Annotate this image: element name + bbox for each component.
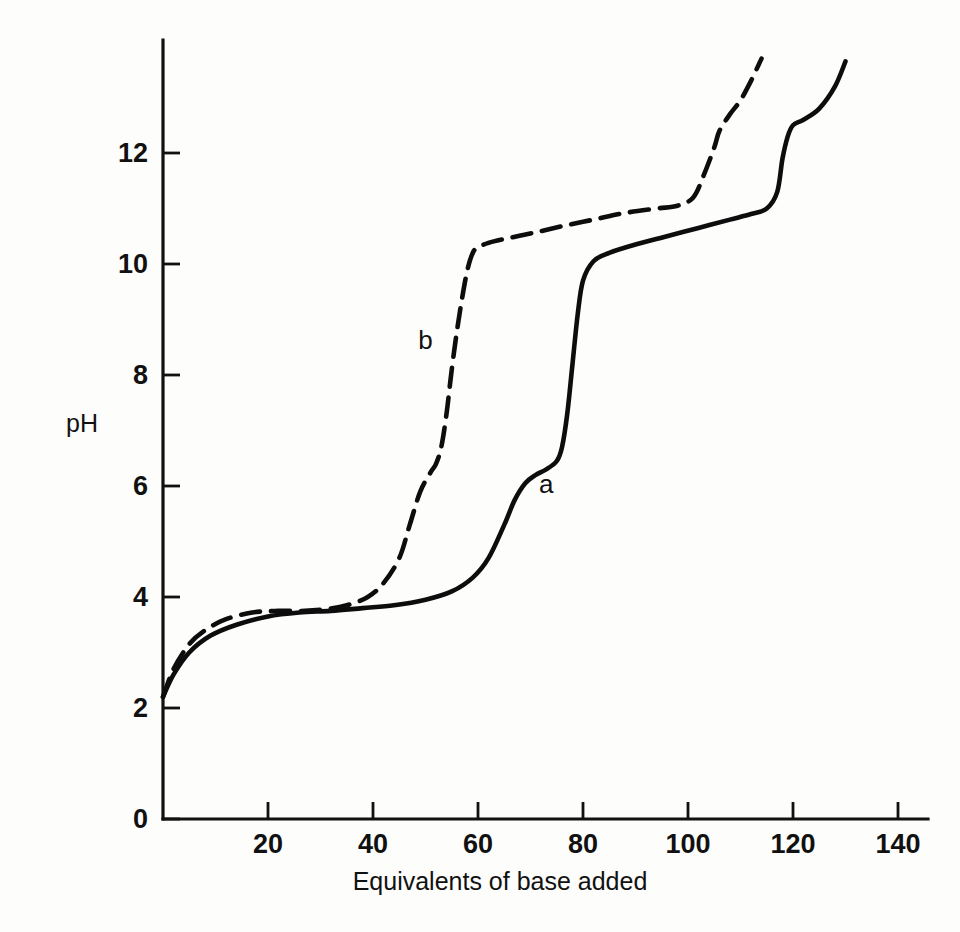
y-tick-label-4: 4 [133,582,148,612]
curves-group [163,59,846,697]
x-tick-label-120: 120 [770,829,815,859]
x-axis-title: Equivalents of base added [353,867,648,895]
x-tick-label-60: 60 [463,829,493,859]
x-tick-label-140: 140 [875,829,920,859]
y-tick-label-0: 0 [133,804,148,834]
y-tick-label-12: 12 [118,138,148,168]
titration-curve-a [163,61,846,696]
x-tick-label-40: 40 [358,829,388,859]
titration-plot-svg: 0 2 4 6 8 10 12 20 40 60 80 100 120 140 … [0,0,960,932]
curve-a-label: a [539,469,554,499]
curve-b-label: b [418,325,432,355]
y-tick-label-10: 10 [118,249,148,279]
titration-chart-figure: 0 2 4 6 8 10 12 20 40 60 80 100 120 140 … [0,0,960,932]
y-axis-title: pH [66,409,98,437]
axes-group [163,40,928,819]
y-tick-label-8: 8 [133,360,148,390]
y-tick-label-2: 2 [133,693,148,723]
y-axis-ticks: 0 2 4 6 8 10 12 [118,138,180,834]
x-tick-label-100: 100 [665,829,710,859]
x-tick-label-80: 80 [568,829,598,859]
x-tick-label-20: 20 [253,829,283,859]
titration-curve-b [163,59,762,697]
x-axis-ticks: 20 40 60 80 100 120 140 [253,802,921,859]
y-tick-label-6: 6 [133,471,148,501]
